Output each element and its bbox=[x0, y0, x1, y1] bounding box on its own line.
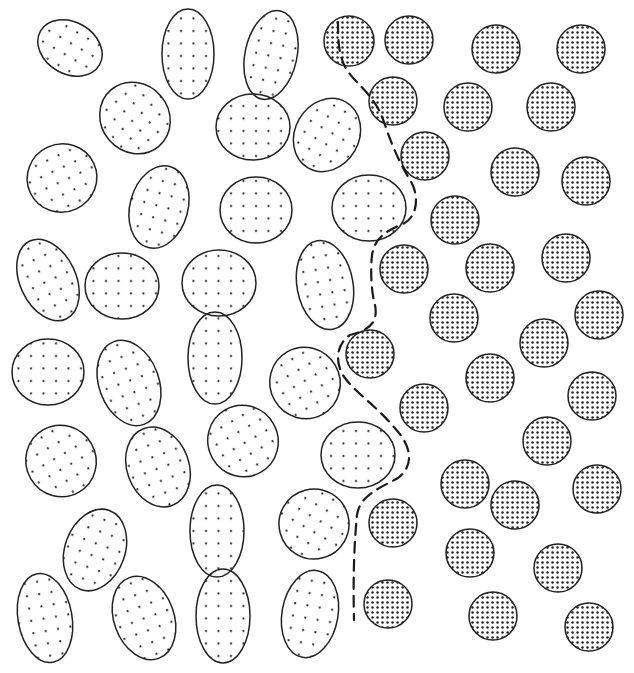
particle-separation-diagram bbox=[0, 0, 634, 673]
ellipse-particle bbox=[216, 94, 290, 160]
circle-particle bbox=[385, 16, 433, 64]
ellipse-particle bbox=[332, 175, 406, 241]
ellipse-particle bbox=[162, 9, 214, 99]
circle-particle bbox=[401, 132, 449, 180]
circle-particle bbox=[523, 417, 571, 465]
circle-particle bbox=[369, 499, 417, 547]
circle-particle bbox=[573, 465, 621, 513]
circle-particle bbox=[466, 244, 514, 292]
circle-particle bbox=[431, 196, 479, 244]
circle-particle bbox=[491, 481, 539, 529]
circle-particle bbox=[469, 592, 517, 640]
circle-particle bbox=[562, 157, 610, 205]
circle-particle bbox=[369, 77, 417, 125]
circle-particle bbox=[400, 384, 448, 432]
circle-particle bbox=[472, 25, 520, 73]
ellipse-particle bbox=[188, 312, 242, 404]
circle-particle bbox=[346, 330, 394, 378]
circle-particle bbox=[446, 529, 494, 577]
ellipse-particle bbox=[220, 177, 292, 243]
circle-particle bbox=[380, 245, 428, 293]
circle-particle bbox=[441, 460, 489, 508]
circle-particle bbox=[575, 291, 623, 339]
ellipse-particle bbox=[196, 569, 250, 663]
circle-particle bbox=[364, 580, 412, 628]
circle-particle bbox=[520, 319, 568, 367]
circle-particle bbox=[568, 372, 616, 420]
circle-particle bbox=[565, 603, 613, 651]
circle-particle bbox=[491, 148, 539, 196]
ellipse-particle bbox=[85, 253, 159, 319]
ellipse-particle bbox=[190, 485, 244, 577]
circle-particle bbox=[466, 354, 514, 402]
circle-particle bbox=[324, 16, 374, 66]
ellipse-particle bbox=[182, 250, 256, 316]
ellipse-particle bbox=[12, 339, 84, 405]
circle-particle bbox=[444, 83, 492, 131]
circle-particle bbox=[430, 294, 478, 342]
ellipse-particle bbox=[321, 422, 395, 488]
circle-particle bbox=[542, 234, 590, 282]
circle-particle bbox=[527, 83, 575, 131]
circle-particle bbox=[534, 544, 582, 592]
circle-particle bbox=[557, 25, 605, 73]
